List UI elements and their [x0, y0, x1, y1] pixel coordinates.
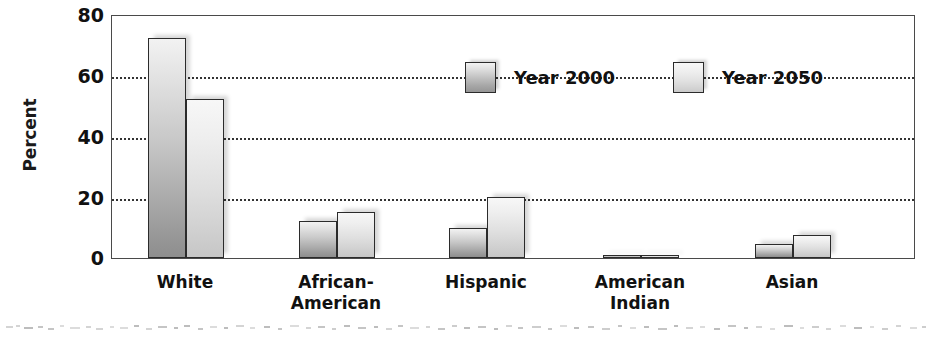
scan-speck — [290, 325, 299, 327]
scan-speck — [532, 326, 541, 328]
y-axis-title-text: Percent — [20, 99, 40, 172]
scan-speck — [744, 327, 748, 329]
x-label-line: American — [246, 293, 426, 314]
scan-artifact-strip — [0, 322, 934, 348]
scan-speck — [478, 326, 486, 328]
bar-group-american-indian — [603, 14, 679, 258]
scan-speck — [854, 327, 862, 329]
legend-swatch-year-2000 — [465, 62, 496, 93]
bar-white-year-2050 — [186, 99, 224, 258]
scan-speck — [784, 325, 793, 327]
legend-swatch-year-2050 — [673, 62, 704, 93]
scan-speck — [518, 327, 523, 329]
scan-speck — [332, 328, 336, 330]
bar-group-hispanic — [449, 14, 525, 258]
y-axis-tick-labels: 80 60 40 20 0 — [48, 0, 104, 348]
scan-speck — [410, 327, 419, 329]
scan-speck — [158, 326, 167, 328]
scan-speck — [386, 328, 392, 330]
scan-speck — [134, 325, 139, 327]
legend-item-year-2050: Year 2050 — [673, 62, 823, 93]
scan-speck — [174, 327, 178, 329]
scan-speck — [48, 328, 54, 330]
scan-speck — [184, 325, 190, 327]
scan-speck — [224, 327, 228, 329]
y-tick-40: 40 — [54, 128, 104, 147]
legend-item-year-2000: Year 2000 — [465, 62, 615, 93]
x-label-line: Asian — [702, 272, 882, 293]
scan-speck — [840, 325, 846, 327]
scan-speck — [910, 327, 917, 329]
scan-speck — [38, 326, 43, 328]
scan-speck — [96, 328, 103, 330]
bar-american-indian-year-2050 — [641, 255, 679, 258]
bar-african-american-year-2050 — [337, 212, 375, 258]
scan-speck — [24, 327, 33, 329]
scan-speck — [548, 328, 552, 330]
y-tick-80: 80 — [54, 6, 104, 25]
scan-speck — [714, 328, 720, 330]
scan-speck — [464, 327, 470, 329]
scan-speck — [438, 328, 445, 330]
scan-speck — [374, 326, 378, 328]
scan-speck — [70, 327, 80, 329]
bar-group-white — [148, 14, 224, 258]
scan-speck — [398, 325, 403, 327]
scan-speck — [588, 326, 594, 328]
scan-speck — [602, 328, 610, 330]
x-label-line: Hispanic — [396, 272, 576, 293]
scan-speck — [318, 326, 325, 328]
scan-speck — [686, 327, 693, 329]
scan-speck — [812, 326, 819, 328]
scan-speck — [870, 326, 874, 328]
scan-speck — [618, 325, 622, 327]
scan-speck — [120, 327, 128, 329]
bar-african-american-year-2000 — [299, 221, 337, 258]
x-label-hispanic: Hispanic — [396, 272, 576, 293]
scan-speck — [278, 328, 282, 330]
scan-speck — [146, 328, 152, 330]
bar-group-asian — [755, 14, 831, 258]
scan-speck — [506, 325, 512, 327]
y-tick-20: 20 — [54, 189, 104, 208]
scan-speck — [426, 326, 430, 328]
x-label-asian: Asian — [702, 272, 882, 293]
scan-speck — [306, 327, 311, 329]
scan-speck — [110, 326, 114, 328]
scan-speck — [264, 326, 270, 328]
bar-chart: Percent 80 60 40 20 0 WhiteAfrican-Ameri… — [0, 0, 934, 348]
scan-speck — [574, 327, 579, 329]
scan-speck — [6, 326, 13, 328]
scan-speck — [452, 325, 457, 327]
scan-speck — [728, 325, 736, 327]
scan-speck — [756, 326, 762, 328]
scan-speck — [800, 327, 804, 329]
scan-speck — [700, 326, 705, 328]
scan-speck — [250, 327, 255, 329]
plot-area — [111, 15, 915, 259]
scan-speck — [630, 327, 636, 329]
bar-asian-year-2050 — [793, 235, 831, 258]
y-tick-0: 0 — [54, 249, 104, 268]
scan-speck — [236, 325, 244, 327]
legend-label-year-2000: Year 2000 — [514, 67, 615, 88]
scan-speck — [358, 327, 366, 329]
scan-speck — [770, 328, 775, 330]
scan-speck — [674, 325, 678, 327]
scan-speck — [882, 328, 888, 330]
scan-speck — [560, 325, 567, 327]
bar-american-indian-year-2000 — [603, 255, 641, 258]
legend: Year 2000 Year 2050 — [465, 62, 823, 93]
bar-hispanic-year-2000 — [449, 228, 487, 259]
bars-layer — [112, 16, 914, 258]
bar-hispanic-year-2050 — [487, 197, 525, 258]
x-label-line: Indian — [550, 293, 730, 314]
scan-speck — [494, 328, 498, 330]
scan-speck — [16, 325, 20, 327]
scan-speck — [198, 328, 203, 330]
scan-speck — [60, 325, 64, 327]
scan-speck — [86, 326, 91, 328]
scan-speck — [826, 328, 831, 330]
legend-label-year-2050: Year 2050 — [722, 67, 823, 88]
scan-speck — [922, 326, 926, 328]
